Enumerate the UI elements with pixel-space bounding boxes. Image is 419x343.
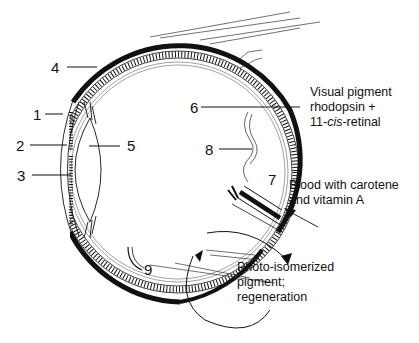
blood-line2: and vitamin A — [289, 193, 399, 208]
label-2: 2 — [16, 138, 24, 153]
retina-fovea — [243, 112, 257, 182]
eye-diagram — [0, 0, 419, 343]
nerve-9 — [128, 247, 142, 270]
blood-line1: Blood with carotene — [289, 178, 399, 193]
label-3: 3 — [17, 168, 25, 183]
visual-pigment-line1: Visual pigment — [310, 85, 392, 100]
visual-pigment-line2: rhodopsin + — [310, 100, 392, 115]
optic-nerve — [228, 186, 282, 232]
photo-line3: regeneration — [237, 290, 334, 305]
photo-note: Photo-isomerized pigment; regeneration — [237, 260, 334, 305]
label-4: 4 — [51, 60, 59, 75]
label-9: 9 — [144, 262, 152, 277]
label-6: 6 — [190, 100, 198, 115]
label-8: 8 — [205, 142, 213, 157]
photo-line1: Photo-isomerized — [237, 260, 334, 275]
blood-note: Blood with carotene and vitamin A — [289, 178, 399, 208]
isomerization-marker — [195, 250, 203, 262]
label-5: 5 — [127, 138, 135, 153]
lens — [75, 102, 101, 238]
photo-line2: pigment; — [237, 275, 334, 290]
visual-pigment-line3: 11-cis-retinal — [310, 115, 392, 130]
label-1: 1 — [33, 107, 41, 122]
label-7: 7 — [268, 172, 276, 187]
visual-pigment-note: Visual pigment rhodopsin + 11-cis-retina… — [310, 85, 392, 130]
